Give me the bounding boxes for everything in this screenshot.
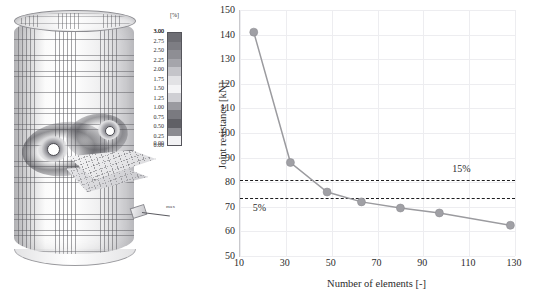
colorbar-segment bbox=[168, 76, 181, 85]
colorbar-tick: 0.25 bbox=[142, 133, 164, 139]
tubular-column-mesh: max bbox=[14, 10, 134, 260]
fem-contour-plot: max [%] 3.00 0.00 3.002.752.502.252.001.… bbox=[0, 0, 200, 302]
colorbar-segment bbox=[168, 42, 181, 51]
colorbar-tick: 1.25 bbox=[142, 95, 164, 101]
x-axis-tick: 110 bbox=[453, 258, 483, 268]
data-point bbox=[286, 159, 294, 167]
colorbar-tick: 3.00 bbox=[142, 28, 164, 34]
bolt-hole-left bbox=[47, 143, 60, 156]
colorbar-tick-labels: 3.002.752.502.252.001.751.501.251.000.75… bbox=[142, 31, 164, 145]
y-axis-tick: 140 bbox=[205, 30, 235, 40]
max-annotation-label: max bbox=[166, 204, 175, 209]
column-top-mesh bbox=[17, 13, 133, 29]
x-axis-tick: 130 bbox=[499, 258, 529, 268]
colorbar-unit-label: [%] bbox=[170, 12, 179, 18]
colorbar-tick: 0.75 bbox=[142, 114, 164, 120]
threshold-15-label: 15% bbox=[452, 163, 470, 174]
colorbar-segment bbox=[168, 128, 181, 137]
y-axis-tick: 60 bbox=[205, 226, 235, 236]
colorbar-tick: 2.25 bbox=[142, 57, 164, 63]
data-series-layer bbox=[240, 10, 515, 256]
y-axis-tick: 70 bbox=[205, 202, 235, 212]
y-axis-tick: 150 bbox=[205, 5, 235, 15]
colorbar-segment bbox=[168, 50, 181, 59]
data-point bbox=[506, 221, 514, 229]
colorbar-tick: 0.50 bbox=[142, 123, 164, 129]
y-axis-title: Joint resistance [kN] bbox=[217, 51, 228, 201]
data-point bbox=[323, 188, 331, 196]
threshold-5-label: 5% bbox=[253, 202, 266, 213]
figure-container: max [%] 3.00 0.00 3.002.752.502.252.001.… bbox=[0, 0, 549, 302]
colorbar-segment bbox=[168, 33, 181, 42]
colorbar-tick: 1.50 bbox=[142, 85, 164, 91]
x-axis-tick: 30 bbox=[270, 258, 300, 268]
convergence-chart: 5060708090100110120130140150 10305070901… bbox=[200, 0, 549, 302]
gridline-vertical bbox=[515, 10, 516, 256]
colorbar-tick: 2.75 bbox=[142, 38, 164, 44]
series-markers bbox=[250, 28, 515, 229]
column-top-ellipse bbox=[14, 10, 136, 32]
colorbar-segment bbox=[168, 85, 181, 94]
colorbar-segment bbox=[168, 136, 181, 145]
data-point bbox=[435, 209, 443, 217]
colorbar-tick: 0.00 bbox=[142, 142, 164, 148]
column-bottom-edge bbox=[14, 249, 136, 266]
x-axis-tick: 90 bbox=[407, 258, 437, 268]
x-axis-tick: 50 bbox=[316, 258, 346, 268]
colorbar-segment bbox=[168, 67, 181, 76]
colorbar-legend: [%] 3.00 0.00 3.002.752.502.252.001.751.… bbox=[142, 12, 200, 162]
x-axis-tick: 70 bbox=[362, 258, 392, 268]
bolt-hole-right bbox=[105, 126, 115, 136]
series-line bbox=[254, 32, 511, 225]
colorbar-segment bbox=[168, 59, 181, 68]
colorbar-tick: 2.50 bbox=[142, 47, 164, 53]
colorbar-tick: 1.75 bbox=[142, 76, 164, 82]
colorbar-tick: 2.00 bbox=[142, 66, 164, 72]
colorbar-gradient bbox=[167, 32, 182, 146]
x-axis-tick: 10 bbox=[224, 258, 254, 268]
colorbar-segment bbox=[168, 102, 181, 111]
plot-area bbox=[239, 10, 515, 257]
colorbar-tick: 1.00 bbox=[142, 104, 164, 110]
colorbar-segment bbox=[168, 93, 181, 102]
colorbar-segment bbox=[168, 110, 181, 119]
data-point bbox=[396, 204, 404, 212]
data-point bbox=[357, 198, 365, 206]
colorbar-segment bbox=[168, 119, 181, 128]
x-axis-title: Number of elements [-] bbox=[239, 278, 514, 289]
data-point bbox=[250, 28, 258, 36]
